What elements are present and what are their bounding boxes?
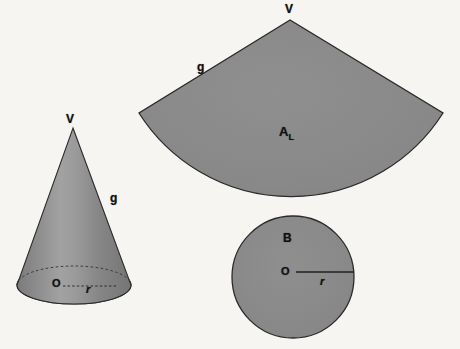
base-circle-shape (232, 216, 354, 338)
lateral-sector-shape (139, 20, 443, 197)
lateral-area-symbol: A (279, 124, 288, 139)
geometry-figure: V g O r V g AL B O r (0, 0, 460, 349)
sector-slant-label: g (197, 61, 204, 73)
cone-lateral-body (17, 128, 131, 304)
base-center-label: O (281, 266, 290, 277)
sector-group (139, 20, 443, 197)
lateral-area-label: AL (279, 125, 294, 142)
lateral-area-subscript: L (288, 132, 294, 142)
base-circle-group (232, 216, 354, 338)
cone-radius-label: r (86, 284, 90, 295)
sector-apex-label: V (285, 3, 293, 15)
cone-slant-label: g (110, 192, 117, 204)
cone-group (17, 128, 131, 304)
cone-net-diagram (0, 0, 460, 349)
base-radius-label: r (320, 276, 324, 287)
base-area-label: B (283, 232, 292, 244)
cone-center-label: O (52, 278, 61, 289)
cone-apex-label: V (66, 113, 74, 125)
